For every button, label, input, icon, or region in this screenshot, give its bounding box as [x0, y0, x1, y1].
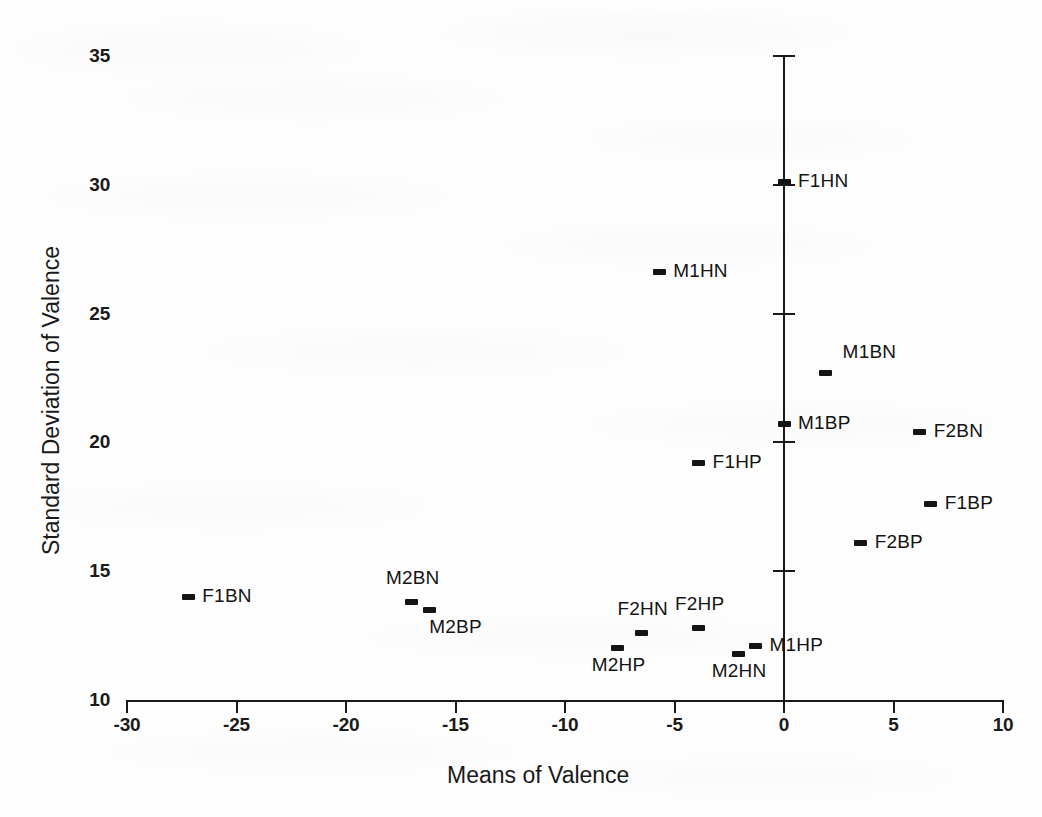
y-tick-15: [773, 570, 795, 572]
data-point-M1BN: [819, 370, 832, 376]
data-point-M1BP: [778, 421, 791, 427]
x-tick-label-0: 0: [779, 714, 789, 736]
x-tick-label-10: 10: [993, 714, 1014, 736]
x-tick--5: [674, 700, 676, 713]
x-tick-label--25: -25: [223, 714, 250, 736]
data-point-label-F1BP: F1BP: [945, 492, 993, 514]
data-point-F1BP: [924, 501, 937, 507]
data-point-F1HP: [692, 460, 705, 466]
data-point-M2BN: [405, 599, 418, 605]
data-point-F2HP: [692, 625, 705, 631]
data-point-label-M2BN: M2BN: [386, 567, 440, 589]
data-point-F2HN: [635, 630, 648, 636]
data-point-label-M1BN: M1BN: [843, 341, 897, 363]
x-tick--25: [236, 700, 238, 713]
x-tick-label--15: -15: [442, 714, 469, 736]
data-point-F1HN: [778, 179, 791, 185]
x-tick-5: [893, 700, 895, 713]
y-axis-title: Standard Deviation of Valence: [38, 246, 65, 555]
x-tick--15: [455, 700, 457, 713]
x-tick-0: [783, 700, 785, 713]
data-point-label-M2HP: M2HP: [592, 654, 646, 676]
y-tick-label-20: 20: [89, 431, 110, 453]
data-point-label-F2HP: F2HP: [675, 593, 724, 615]
data-point-label-F2BP: F2BP: [875, 531, 923, 553]
data-point-label-F1HP: F1HP: [713, 451, 762, 473]
x-tick--30: [126, 700, 128, 713]
y-axis-spine: [783, 56, 785, 700]
y-tick-25: [773, 313, 795, 315]
x-tick--20: [345, 700, 347, 713]
data-point-label-F2HN: F2HN: [617, 598, 667, 620]
y-tick-label-30: 30: [89, 174, 110, 196]
y-tick-label-15: 15: [89, 560, 110, 582]
x-tick-label--20: -20: [333, 714, 360, 736]
data-point-M2BP: [423, 607, 436, 613]
x-tick-label-5: 5: [888, 714, 898, 736]
data-point-label-M2BP: M2BP: [429, 616, 482, 638]
data-point-F1BN: [182, 594, 195, 600]
y-tick-20: [773, 441, 795, 443]
paper-bleed-through-texture: [0, 0, 1042, 817]
y-tick-label-10: 10: [89, 689, 110, 711]
x-tick-10: [1002, 700, 1004, 713]
data-point-label-M1HN: M1HN: [673, 260, 728, 282]
x-tick-label--10: -10: [552, 714, 579, 736]
data-point-M2HN: [732, 651, 745, 657]
x-axis-title: Means of Valence: [447, 762, 629, 789]
data-point-F2BP: [854, 540, 867, 546]
data-point-label-F1BN: F1BN: [202, 585, 251, 607]
data-point-M2HP: [611, 645, 624, 651]
x-tick-label--5: -5: [666, 714, 683, 736]
data-point-label-M1HP: M1HP: [770, 634, 824, 656]
y-tick-35: [773, 55, 795, 57]
y-tick-label-25: 25: [89, 303, 110, 325]
x-tick-label--30: -30: [114, 714, 141, 736]
scatter-plot-figure: -30-25-20-15-10-50510101520253035 F1HNM1…: [0, 0, 1042, 817]
data-point-label-F2BN: F2BN: [934, 420, 983, 442]
x-tick--10: [564, 700, 566, 713]
data-point-F2BN: [913, 429, 926, 435]
data-point-label-F1HN: F1HN: [798, 170, 848, 192]
y-tick-label-35: 35: [89, 45, 110, 67]
data-point-label-M1BP: M1BP: [798, 412, 851, 434]
data-point-label-M2HN: M2HN: [712, 660, 767, 682]
data-point-M1HN: [653, 269, 666, 275]
data-point-M1HP: [749, 643, 762, 649]
